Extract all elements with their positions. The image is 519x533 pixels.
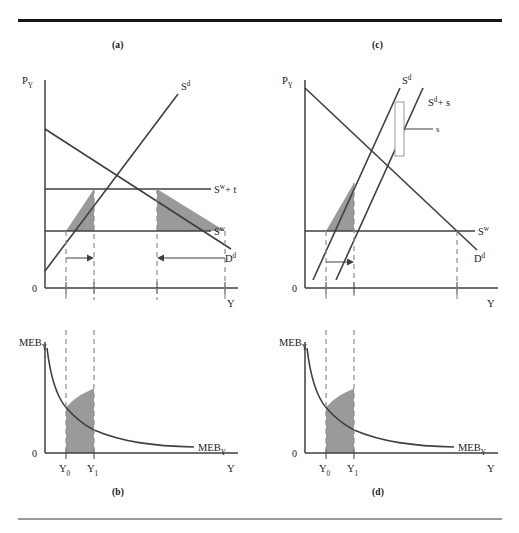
panel-caption-b: (b) bbox=[112, 487, 124, 497]
domestic-supply-label: Sd bbox=[181, 80, 191, 92]
meb-curve-label: MEBY bbox=[198, 442, 227, 457]
figure-root: (a) (c) (b) (d) bbox=[0, 0, 519, 533]
panel-b-tick-label-y1: Y1 bbox=[87, 463, 99, 478]
domestic-demand-label: Dd bbox=[474, 252, 486, 264]
panel-c-y-axis-label: PY bbox=[282, 75, 294, 90]
panel-c-origin-label: 0 bbox=[292, 283, 297, 294]
supply-plus-subsidy-label: Sd+ s bbox=[428, 96, 450, 108]
panel-d-origin-label: 0 bbox=[292, 448, 297, 459]
panel-d-plot: MEBY 0 Y Y0 Y1 MEBY bbox=[278, 330, 510, 485]
domestic-supply-line bbox=[45, 94, 178, 271]
domestic-supply-label: Sd bbox=[402, 74, 412, 86]
panel-b-y-axis-label: MEBY bbox=[19, 337, 48, 352]
subsidy-bracket bbox=[395, 102, 433, 156]
domestic-demand-label: Dd bbox=[225, 252, 237, 264]
supply-expansion-arrow bbox=[326, 259, 354, 266]
world-supply-plus-tariff-label: Sw+ t bbox=[214, 183, 237, 195]
consumption-loss-triangle bbox=[157, 189, 225, 231]
panel-b-tick-label-y0: Y0 bbox=[59, 463, 71, 478]
panel-a-x-axis-label: Y bbox=[227, 298, 235, 309]
panel-d-x-axis-label: Y bbox=[487, 463, 495, 474]
panel-caption-d: (d) bbox=[372, 487, 384, 497]
figure-bottom-rule bbox=[18, 518, 502, 520]
world-supply-label: Sw bbox=[478, 225, 490, 237]
panel-a-y-axis-label: PY bbox=[22, 75, 34, 90]
panel-a-origin-label: 0 bbox=[32, 283, 37, 294]
panel-d-tick-label-y0: Y0 bbox=[319, 463, 331, 478]
panel-c-plot: PY 0 Y Sd Sd+ s s Sw Dd bbox=[278, 66, 510, 321]
supply-plus-subsidy-line bbox=[336, 88, 423, 280]
meb-curve-label: MEBY bbox=[458, 442, 487, 457]
world-supply-label: Sw bbox=[214, 225, 226, 237]
subsidy-label: s bbox=[436, 124, 440, 134]
panel-b-origin-label: 0 bbox=[32, 448, 37, 459]
panel-b-plot: MEBY 0 Y Y0 Y1 MEBY bbox=[18, 330, 248, 485]
panel-caption-c: (c) bbox=[372, 40, 383, 50]
panel-a-plot: PY 0 Y Sd Sw+ t Sw Dd bbox=[18, 66, 248, 321]
panel-d-tick-label-y1: Y1 bbox=[347, 463, 359, 478]
subsidy-deadweight-triangle bbox=[326, 183, 354, 231]
panel-d-y-axis-label: MEBY bbox=[279, 337, 308, 352]
panel-caption-a: (a) bbox=[112, 40, 124, 50]
demand-contraction-arrow bbox=[157, 255, 225, 262]
panel-c-x-axis-label: Y bbox=[487, 298, 495, 309]
figure-top-rule bbox=[18, 19, 502, 22]
supply-expansion-arrow bbox=[66, 255, 94, 262]
panel-b-x-axis-label: Y bbox=[227, 463, 235, 474]
